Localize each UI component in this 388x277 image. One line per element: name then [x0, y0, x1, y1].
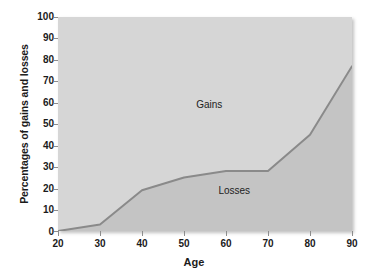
x-tick-label: 80	[295, 238, 325, 249]
y-tick-label: 50	[28, 119, 54, 129]
y-tick-label: 90	[28, 33, 54, 43]
x-tick-mark	[352, 231, 353, 236]
x-tick-mark	[268, 231, 269, 236]
x-tick-mark	[58, 231, 59, 236]
area-chart-svg	[58, 17, 352, 231]
y-tick-label: 20	[28, 184, 54, 194]
y-tick-label: 0	[28, 227, 54, 237]
chart-figure: Percentages of gains and losses 100 90 8…	[0, 0, 388, 277]
x-tick-label: 30	[85, 238, 115, 249]
losses-region-label: Losses	[218, 185, 250, 196]
x-tick-label: 90	[337, 238, 367, 249]
x-tick-mark	[226, 231, 227, 236]
x-axis-tick-labels: 20 30 40 50 60 70 80 90	[0, 238, 388, 252]
x-tick-label: 60	[211, 238, 241, 249]
y-tick-label: 30	[28, 162, 54, 172]
y-tick-label: 10	[28, 205, 54, 215]
x-tick-label: 50	[169, 238, 199, 249]
x-tick-mark	[310, 231, 311, 236]
y-tick-label: 40	[28, 141, 54, 151]
x-tick-label: 70	[253, 238, 283, 249]
x-tick-mark	[184, 231, 185, 236]
plot-area	[58, 17, 352, 231]
y-tick-label: 60	[28, 98, 54, 108]
y-tick-label: 100	[28, 12, 54, 22]
gains-region-label: Gains	[196, 99, 222, 110]
x-tick-mark	[142, 231, 143, 236]
x-tick-label: 20	[43, 238, 73, 249]
y-tick-label: 80	[28, 55, 54, 65]
x-tick-label: 40	[127, 238, 157, 249]
y-axis-tick-labels: 100 90 80 70 60 50 40 30 20 10 0	[24, 0, 54, 277]
x-axis-title: Age	[0, 256, 388, 268]
x-tick-mark	[100, 231, 101, 236]
y-tick-label: 70	[28, 76, 54, 86]
